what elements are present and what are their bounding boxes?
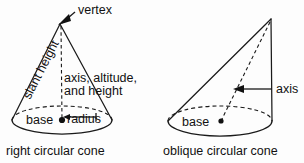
label-slant-height: slant height	[20, 38, 62, 102]
caption-right-circular-cone: right circular cone	[6, 144, 105, 158]
oblique-circular-cone-figure: axis base oblique circular cone	[163, 19, 298, 158]
right-circular-cone-figure: vertex slant height axis, altitude, and …	[6, 3, 137, 158]
label-axis-altitude-height-line1: axis, altitude,	[64, 71, 137, 85]
label-vertex: vertex	[78, 3, 113, 17]
right-cone-vertex-arrowhead-icon	[58, 14, 71, 25]
right-cone-base-center-dot	[59, 117, 65, 123]
caption-oblique-circular-cone: oblique circular cone	[163, 144, 278, 158]
label-base-oblique-cone: base	[182, 115, 209, 129]
cone-diagram: vertex slant height axis, altitude, and …	[0, 0, 304, 163]
label-radius: radius	[67, 112, 101, 126]
label-axis-altitude-height-line2: and height	[64, 84, 123, 98]
oblique-cone-right-slant-edge	[271, 19, 272, 121]
right-cone-axis-altitude-line	[61, 26, 62, 120]
label-axis-oblique-cone: axis	[276, 82, 298, 96]
label-base-right-cone: base	[26, 113, 53, 127]
oblique-cone-base-center-dot	[218, 118, 223, 123]
cone-diagram-canvas: vertex slant height axis, altitude, and …	[0, 0, 304, 163]
